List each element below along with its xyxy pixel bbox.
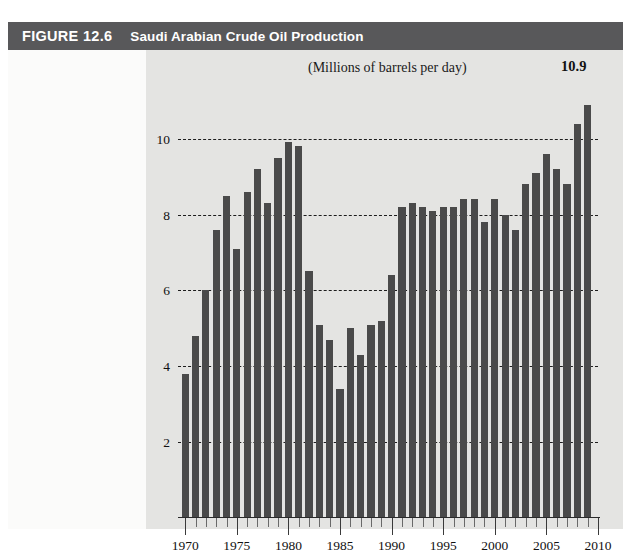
bar (336, 389, 343, 518)
x-tick (515, 518, 516, 527)
chart-subtitle: (Millions of barrels per day) (308, 60, 467, 76)
bar (481, 222, 488, 518)
chart: (Millions of barrels per day) 10.9 24681… (8, 50, 623, 529)
x-tick (412, 518, 413, 527)
x-tick (227, 518, 228, 527)
bar (522, 184, 529, 518)
y-tick-label: 4 (163, 359, 170, 375)
x-tick (299, 518, 300, 527)
x-tick-label: 2010 (585, 538, 612, 554)
x-tick (495, 518, 496, 535)
x-tick (381, 518, 382, 527)
x-tick (237, 518, 238, 535)
x-tick (319, 518, 320, 527)
x-tick (402, 518, 403, 527)
x-tick-label: 1990 (378, 538, 405, 554)
peak-value-label: 10.9 (561, 58, 586, 75)
bar (305, 271, 312, 518)
x-tick (371, 518, 372, 527)
figure-number: FIGURE 12.6 (22, 28, 112, 44)
bar (429, 211, 436, 518)
y-tick-label: 2 (163, 435, 170, 451)
x-tick (546, 518, 547, 535)
bar (223, 196, 230, 518)
figure-body: (Millions of barrels per day) 10.9 24681… (8, 50, 623, 529)
bar (326, 340, 333, 518)
bar (450, 207, 457, 518)
x-tick (196, 518, 197, 527)
x-tick (340, 518, 341, 535)
bar (574, 124, 581, 518)
bar (213, 230, 220, 518)
x-tick (557, 518, 558, 527)
x-tick (598, 518, 599, 535)
x-tick (288, 518, 289, 535)
y-tick-label: 10 (157, 132, 171, 148)
y-tick-label: 8 (163, 208, 170, 224)
bar-series (178, 78, 598, 518)
bar (502, 215, 509, 518)
bar (192, 336, 199, 518)
bar (367, 325, 374, 518)
x-tick-label: 1995 (430, 538, 457, 554)
bar (316, 325, 323, 518)
bar (419, 207, 426, 518)
x-tick (423, 518, 424, 527)
bar (347, 328, 354, 518)
x-tick (350, 518, 351, 527)
x-tick (474, 518, 475, 527)
x-tick (206, 518, 207, 527)
bar (233, 249, 240, 518)
x-tick-label: 1970 (172, 538, 199, 554)
x-tick (257, 518, 258, 527)
x-tick (268, 518, 269, 527)
bar (471, 199, 478, 518)
figure-header: FIGURE 12.6 Saudi Arabian Crude Oil Prod… (8, 22, 623, 50)
bar (295, 146, 302, 518)
x-tick (484, 518, 485, 527)
bar (378, 321, 385, 518)
x-tick-label: 2005 (533, 538, 560, 554)
x-tick (567, 518, 568, 527)
bar (532, 173, 539, 518)
x-tick (392, 518, 393, 535)
bar (584, 105, 591, 518)
bar (254, 169, 261, 518)
figure-title: Saudi Arabian Crude Oil Production (130, 29, 363, 44)
plot-area: 246810 197019751980198519901995200020052… (178, 78, 598, 518)
bar (440, 207, 447, 518)
x-tick (526, 518, 527, 527)
bar (264, 203, 271, 518)
x-tick (309, 518, 310, 527)
bar (460, 199, 467, 518)
bar (398, 207, 405, 518)
bar (388, 275, 395, 518)
bar (409, 203, 416, 518)
x-tick (278, 518, 279, 527)
bar (244, 192, 251, 518)
bar (357, 355, 364, 518)
x-tick (505, 518, 506, 527)
x-tick (185, 518, 186, 535)
x-tick (536, 518, 537, 527)
bar (285, 142, 292, 518)
x-tick (330, 518, 331, 527)
bar (274, 158, 281, 518)
x-tick (247, 518, 248, 527)
x-tick-label: 1980 (275, 538, 302, 554)
bar (512, 230, 519, 518)
bar (202, 290, 209, 518)
x-tick-label: 1975 (223, 538, 250, 554)
x-tick-label: 1985 (327, 538, 354, 554)
x-tick (361, 518, 362, 527)
x-tick (454, 518, 455, 527)
x-tick (443, 518, 444, 535)
bar (563, 184, 570, 518)
x-tick (588, 518, 589, 527)
x-tick (433, 518, 434, 527)
bar (182, 374, 189, 518)
bar (491, 199, 498, 518)
x-tick (464, 518, 465, 527)
bar (553, 169, 560, 518)
